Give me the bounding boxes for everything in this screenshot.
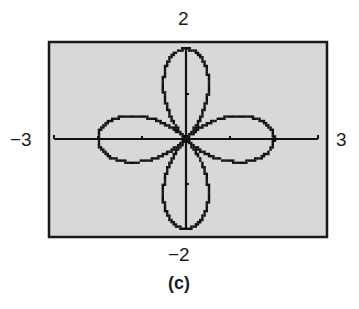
y-min-label: −2 bbox=[168, 245, 190, 264]
y-max-label: 2 bbox=[178, 9, 189, 28]
x-min-label: −3 bbox=[10, 130, 32, 149]
x-max-label: 3 bbox=[336, 130, 347, 149]
figure-caption: (c) bbox=[168, 274, 190, 292]
